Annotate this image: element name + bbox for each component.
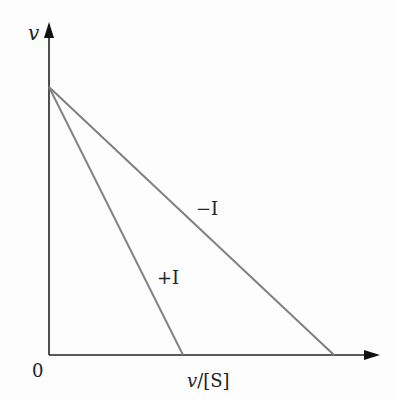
chart-svg: v 0 v/[S] −I +I (0, 0, 394, 399)
eadie-hofstee-plot: v 0 v/[S] −I +I (0, 0, 394, 399)
plus-i-label: +I (157, 267, 179, 288)
line-plus-i (49, 87, 183, 355)
y-axis-arrow-icon (44, 22, 54, 38)
x-axis-label: v/[S] (187, 370, 230, 391)
line-minus-i (49, 87, 334, 355)
minus-i-label: −I (196, 198, 218, 219)
origin-label: 0 (32, 360, 43, 381)
x-axis-arrow-icon (364, 350, 380, 360)
y-axis-label: v (28, 21, 40, 45)
